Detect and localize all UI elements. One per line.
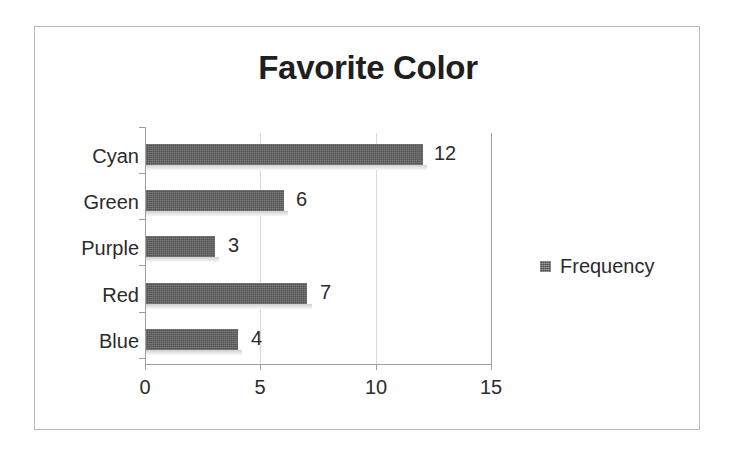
bar-value-purple: 3 (228, 234, 239, 257)
y-axis-label-cyan: Cyan (35, 145, 139, 168)
y-tick-3 (139, 265, 145, 266)
x-tick-5 (260, 364, 261, 370)
bar-value-green: 6 (296, 188, 307, 211)
bar-value-red: 7 (320, 281, 331, 304)
bar-shadow-cyan (146, 165, 427, 170)
bar-shadow-green (146, 211, 288, 216)
y-axis-label-blue: Blue (35, 330, 139, 353)
chart-legend: Frequency (540, 255, 655, 278)
gridline-15 (491, 133, 492, 364)
chart-frame: Favorite Color Cyan Green Purple Red Blu… (34, 26, 700, 430)
chart-screenshot: Favorite Color Cyan Green Purple Red Blu… (0, 0, 729, 454)
x-tick-10 (376, 364, 377, 370)
x-tick-15 (491, 364, 492, 370)
y-tick-1 (139, 173, 145, 174)
bar-shadow-purple (146, 257, 219, 262)
x-axis-tick-label-10: 10 (365, 376, 387, 399)
y-tick-2 (139, 219, 145, 220)
x-axis-line (145, 364, 492, 365)
y-axis-label-red: Red (35, 284, 139, 307)
legend-label-frequency: Frequency (560, 255, 655, 278)
plot-area: 12 6 3 7 4 0 (145, 133, 491, 364)
y-axis-label-purple: Purple (35, 237, 139, 260)
y-axis-label-green: Green (35, 191, 139, 214)
bar-shadow-blue (146, 350, 242, 355)
y-tick-5 (139, 358, 145, 359)
chart-title: Favorite Color (35, 49, 701, 87)
bar-shadow-red (146, 304, 312, 309)
bar-cyan[interactable] (146, 144, 423, 165)
bar-red[interactable] (146, 283, 307, 304)
x-axis-tick-label-15: 15 (480, 376, 502, 399)
x-axis-tick-label-0: 0 (139, 376, 150, 399)
bar-value-blue: 4 (251, 327, 262, 350)
x-axis-tick-label-5: 5 (254, 376, 265, 399)
y-axis-category-labels: Cyan Green Purple Red Blue (35, 133, 139, 364)
bar-purple[interactable] (146, 236, 215, 257)
bar-blue[interactable] (146, 329, 238, 350)
bar-value-cyan: 12 (434, 142, 456, 165)
legend-swatch-icon (540, 261, 551, 272)
x-tick-0 (145, 364, 146, 370)
y-tick-0 (139, 127, 145, 128)
bar-green[interactable] (146, 190, 284, 211)
y-tick-4 (139, 312, 145, 313)
